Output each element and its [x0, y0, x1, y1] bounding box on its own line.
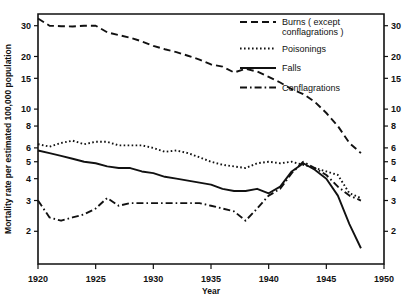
y-axis-title: Mortality rate per estimated 100,000 pop…: [3, 44, 13, 234]
y-tick-label-right: 10: [391, 104, 401, 114]
y-tick-label-right: 15: [391, 74, 401, 84]
y-tick-label-left: 4: [26, 174, 31, 184]
y-tick-label-right: 30: [391, 21, 401, 31]
plot-frame: [38, 14, 384, 264]
x-tick-label: 1935: [201, 274, 221, 284]
y-tick-label-left: 30: [21, 21, 31, 31]
y-tick-label-left: 3: [26, 196, 31, 206]
x-tick-label: 1945: [316, 274, 336, 284]
y-tick-label-left: 5: [26, 157, 31, 167]
series-line-conflagrations: [38, 162, 361, 221]
chart-canvas: 3030202015151010886655443322192019251930…: [0, 0, 412, 302]
y-tick-label-left: 20: [21, 52, 31, 62]
x-tick-label: 1940: [259, 274, 279, 284]
x-tick-label: 1920: [28, 274, 48, 284]
legend-label: Conflagrations: [282, 83, 341, 93]
x-tick-label: 1950: [374, 274, 394, 284]
y-tick-label-left: 10: [21, 104, 31, 114]
series-line-falls: [38, 150, 361, 248]
x-axis-title: Year: [202, 286, 221, 296]
y-tick-label-left: 8: [26, 121, 31, 131]
y-tick-label-left: 15: [21, 74, 31, 84]
legend-label-continued: conflagrations ): [282, 27, 344, 37]
y-tick-label-left: 6: [26, 143, 31, 153]
y-tick-label-left: 2: [26, 226, 31, 236]
legend-label: Falls: [282, 63, 302, 73]
y-tick-label-right: 8: [391, 121, 396, 131]
y-tick-label-right: 5: [391, 157, 396, 167]
y-tick-label-right: 4: [391, 174, 396, 184]
mortality-rate-line-chart: 3030202015151010886655443322192019251930…: [0, 0, 412, 302]
x-tick-label: 1930: [143, 274, 163, 284]
y-tick-label-right: 2: [391, 226, 396, 236]
legend-label: Poisonings: [282, 44, 327, 54]
y-tick-label-right: 3: [391, 196, 396, 206]
x-tick-label: 1925: [86, 274, 106, 284]
y-tick-label-right: 20: [391, 52, 401, 62]
y-tick-label-right: 6: [391, 143, 396, 153]
